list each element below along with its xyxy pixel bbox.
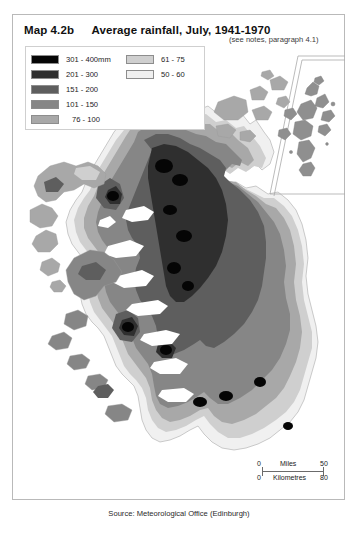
map-scale-bar: 0 Miles 50 0 Kilometres 80 (254, 456, 334, 490)
scale-rule (262, 471, 324, 472)
scale-miles-label: Miles (280, 460, 296, 467)
legend-item: 76 - 100 (31, 112, 111, 126)
legend-item: 201 - 300 (31, 67, 111, 81)
scale-km-label: Kilometres (273, 474, 306, 481)
legend-swatch (31, 115, 59, 124)
notes-reference: (see notes, paragraph 4.1) (229, 35, 319, 44)
legend-label: 50 - 60 (161, 70, 185, 79)
legend-label: 151 - 200 (66, 85, 98, 94)
map-page: Map 4.2b Average rainfall, July, 1941-19… (0, 0, 358, 535)
legend-column-right: 61 - 75 50 - 60 (126, 52, 185, 82)
legend-label: 101 - 150 (66, 100, 98, 109)
scale-km-start: 0 (257, 474, 261, 481)
legend-label: 76 - 100 (72, 115, 100, 124)
legend-swatch (31, 70, 59, 79)
scale-miles-start: 0 (257, 460, 261, 467)
shetland-landmass (278, 76, 335, 176)
legend-swatch (31, 55, 59, 64)
legend-label: 301 - 400mm (66, 55, 111, 64)
legend-label: 201 - 300 (66, 70, 98, 79)
scale-tick-left-lower (262, 471, 263, 476)
legend-swatch (126, 70, 154, 79)
shetland-islands-inset (271, 64, 343, 181)
legend-label: 61 - 75 (161, 55, 185, 64)
legend-column-left: 301 - 400mm 201 - 300 151 - 200 101 - 15… (31, 52, 111, 127)
legend-item: 50 - 60 (126, 67, 185, 81)
rainfall-legend: 301 - 400mm 201 - 300 151 - 200 101 - 15… (25, 46, 205, 130)
legend-item: 151 - 200 (31, 82, 111, 96)
source-note: Source: Meteorological Office (Edinburgh… (0, 509, 358, 518)
legend-swatch (31, 85, 59, 94)
scale-miles-end: 50 (320, 460, 328, 467)
legend-swatch (126, 55, 154, 64)
legend-item: 101 - 150 (31, 97, 111, 111)
scale-km-end: 80 (320, 474, 328, 481)
map-number: Map 4.2b (24, 24, 74, 36)
legend-item: 61 - 75 (126, 52, 185, 66)
legend-item: 301 - 400mm (31, 52, 111, 66)
legend-swatch (31, 100, 59, 109)
